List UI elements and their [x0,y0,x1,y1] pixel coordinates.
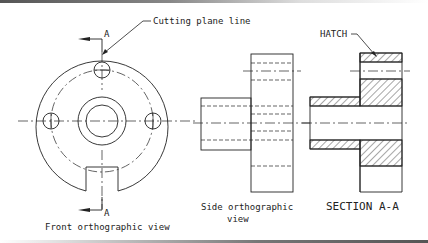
hatch-top-flange [360,53,402,62]
cutting-plane-leader [104,21,151,53]
section-arrow-top-icon [78,37,90,41]
leader-arrow-icon [102,49,108,55]
section-outline [310,53,402,192]
section-arrow-bottom-icon [78,208,90,212]
cutting-plane-label: Cutting plane line [153,16,251,26]
section-marker-bottom: A [104,208,110,218]
side-view [193,54,310,192]
front-view [18,39,196,210]
technical-drawing: Cutting plane line A A Front orthographi… [0,0,428,243]
hatch-hub-bottom [310,140,360,149]
section-view-caption: SECTION A-A [326,200,399,213]
side-view-caption-line1: Side orthographic [201,202,293,212]
hatch-lower-body [360,140,402,166]
side-view-caption-line2: view [227,214,249,224]
section-view [302,53,410,192]
hatch-hub-top [310,97,360,106]
hatch-leader [351,34,375,55]
section-marker-top: A [104,29,110,39]
hidden-lines [201,63,293,166]
front-view-caption: Front orthographic view [45,222,170,232]
hatch-label: HATCH [320,29,347,39]
hatch-upper-body [360,79,402,106]
